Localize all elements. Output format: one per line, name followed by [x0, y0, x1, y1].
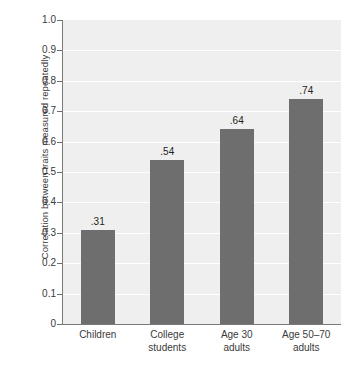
x-axis-category-label: Age 30 adults — [202, 328, 272, 354]
y-axis-tick-label: 0.2 — [24, 258, 56, 268]
y-axis-tick-label: 1.0 — [24, 15, 56, 25]
bar-chart: Correlation between traits measured repe… — [0, 0, 351, 367]
y-axis-tick-label: 0.4 — [24, 197, 56, 207]
y-axis-tick-label: 0 — [24, 319, 56, 329]
bar-value-label: .31 — [91, 216, 105, 227]
x-axis-category-label: Age 50–70 adults — [272, 328, 342, 354]
bar-value-label: .64 — [230, 115, 244, 126]
x-axis-category-label: Children — [63, 328, 133, 341]
y-axis-tick-label: 0.8 — [24, 76, 56, 86]
y-axis-tick-labels: 00.10.20.30.40.50.60.70.80.91.0 — [24, 20, 56, 324]
y-axis-tick-label: 0.9 — [24, 45, 56, 55]
x-axis-category-labels: ChildrenCollege studentsAge 30 adultsAge… — [63, 328, 341, 364]
bar-slot: .64 — [202, 20, 272, 324]
y-axis-tick-label: 0.5 — [24, 167, 56, 177]
y-axis-tick-label: 0.7 — [24, 106, 56, 116]
bar-value-label: .54 — [160, 146, 174, 157]
bar[interactable] — [289, 99, 323, 324]
y-axis-tick-label: 0.1 — [24, 289, 56, 299]
bars-layer: .31.54.64.74 — [63, 20, 341, 324]
bar-value-label: .74 — [299, 85, 313, 96]
y-axis-tick-label: 0.6 — [24, 137, 56, 147]
bar-slot: .31 — [63, 20, 133, 324]
bar[interactable] — [220, 129, 254, 324]
bar-slot: .74 — [272, 20, 342, 324]
y-axis-tick-label: 0.3 — [24, 228, 56, 238]
bar[interactable] — [150, 160, 184, 324]
bar-slot: .54 — [133, 20, 203, 324]
bar[interactable] — [81, 230, 115, 324]
x-axis-line — [62, 324, 341, 325]
x-axis-category-label: College students — [133, 328, 203, 354]
